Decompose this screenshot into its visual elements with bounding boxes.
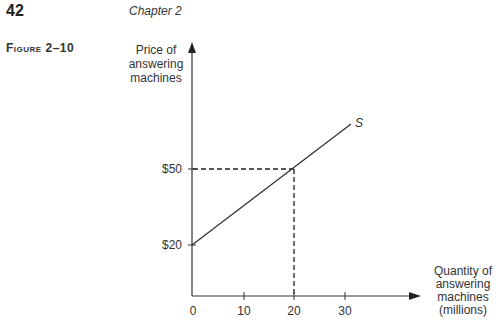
y-tick-label: $20 bbox=[162, 238, 182, 252]
y-tick-label: $50 bbox=[162, 162, 182, 176]
x-tick-label: 0 bbox=[190, 304, 197, 318]
x-axis-arrow-icon bbox=[409, 292, 421, 300]
x-tick-label: 30 bbox=[338, 304, 352, 318]
x-tick-label: 20 bbox=[287, 304, 301, 318]
supply-curve bbox=[192, 124, 351, 245]
x-tick-label: 10 bbox=[237, 304, 251, 318]
supply-chart: 0 10 20 30 $50 $20 S bbox=[0, 0, 501, 323]
y-axis-arrow-icon bbox=[188, 42, 196, 53]
supply-curve-label: S bbox=[355, 116, 363, 130]
